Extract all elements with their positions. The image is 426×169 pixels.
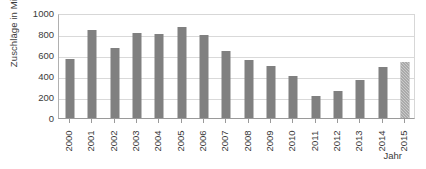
- x-tick-label: 2000: [64, 124, 74, 158]
- x-tick-label: 2009: [265, 124, 275, 158]
- bars-group: [59, 15, 414, 118]
- x-tick-label: 2005: [176, 124, 186, 158]
- bar: [200, 35, 209, 118]
- x-axis-title: Jahr: [384, 150, 402, 161]
- y-axis-title: Zuschläge in Mio. €: [8, 0, 22, 80]
- x-tick-label: 2001: [86, 124, 96, 158]
- bar-slot: [394, 15, 416, 118]
- x-tick-label: 2006: [198, 124, 208, 158]
- bar-slot: [327, 15, 349, 118]
- x-tick-label: 2013: [354, 124, 364, 158]
- bar-slot: [282, 15, 304, 118]
- bar: [266, 66, 275, 119]
- x-tick-label: 2011: [310, 124, 320, 158]
- bar-slot: [304, 15, 326, 118]
- bar: [66, 59, 75, 118]
- bar: [177, 27, 186, 118]
- bar: [289, 76, 298, 118]
- bar-chart: Zuschläge in Mio. € 02004006008001000 20…: [0, 0, 426, 169]
- y-tick-label: 0: [24, 114, 54, 124]
- plot-area: [58, 14, 415, 119]
- x-tick-label: 2003: [131, 124, 141, 158]
- y-tick-label: 800: [24, 30, 54, 40]
- bar-slot: [81, 15, 103, 118]
- x-tick-label: 2010: [287, 124, 297, 158]
- y-axis-tick-labels: 02004006008001000: [24, 8, 54, 120]
- bar-slot: [171, 15, 193, 118]
- y-tick-label: 600: [24, 51, 54, 61]
- bar-slot: [59, 15, 81, 118]
- bar-slot: [215, 15, 237, 118]
- x-tick-label: 2007: [220, 124, 230, 158]
- bar: [311, 96, 320, 118]
- bar: [110, 48, 119, 118]
- bar: [400, 62, 409, 118]
- bar-slot: [126, 15, 148, 118]
- x-tick-label: 2002: [109, 124, 119, 158]
- bar: [133, 33, 142, 118]
- bar-slot: [349, 15, 371, 118]
- x-axis-tick-labels: 2000200120022003200420052006200720082009…: [58, 123, 415, 153]
- bar: [333, 91, 342, 118]
- bar: [222, 51, 231, 118]
- bar: [244, 60, 253, 118]
- x-tick-label: 2012: [332, 124, 342, 158]
- bar-slot: [238, 15, 260, 118]
- y-tick-label: 1000: [24, 9, 54, 19]
- bar: [88, 30, 97, 118]
- y-tick-label: 400: [24, 72, 54, 82]
- bar-slot: [104, 15, 126, 118]
- bar-slot: [193, 15, 215, 118]
- bar-slot: [148, 15, 170, 118]
- bar-slot: [371, 15, 393, 118]
- bar: [378, 67, 387, 118]
- x-tick-label: 2004: [153, 124, 163, 158]
- bar: [356, 80, 365, 118]
- bar-slot: [260, 15, 282, 118]
- x-tick-label: 2008: [243, 124, 253, 158]
- bar: [155, 34, 164, 118]
- y-tick-label: 200: [24, 93, 54, 103]
